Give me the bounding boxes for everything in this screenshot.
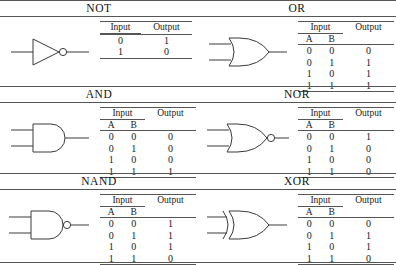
gate-title-nor: NOR [198, 87, 396, 102]
header-output: Output [145, 108, 196, 120]
table-row: 1 0 0 [100, 154, 196, 166]
cell-b: 1 [122, 230, 144, 242]
gate-cell-and: Input Output A B 0 0 [0, 103, 198, 171]
table-header-row: Input Output [100, 195, 196, 207]
truth-table-pane-xor: Input Output A B 0 0 [298, 192, 396, 265]
table-row: 1 0 [100, 46, 192, 58]
header-b: B [320, 119, 342, 130]
header-output: Output [343, 108, 394, 120]
cell-b: 0 [122, 241, 144, 253]
table-row: 0 0 1 [100, 218, 196, 230]
header-input: Input [100, 108, 145, 120]
cell-a: 1 [100, 154, 122, 166]
table-row: 1 0 1 [100, 241, 196, 253]
header-output: Output [343, 22, 394, 34]
header-input: Input [298, 195, 343, 207]
cell-output: 1 [343, 230, 394, 242]
header-spacer [145, 119, 196, 130]
gate-band-3: NAND XOR Inp [0, 173, 396, 262]
truth-table-pane-nor: Input Output A B 0 0 [298, 105, 396, 178]
cell-a: 0 [298, 45, 320, 57]
cell-output: 1 [343, 131, 394, 143]
cell-b: 0 [122, 154, 144, 166]
nor-gate-symbol [198, 105, 298, 171]
cell-a: 0 [298, 230, 320, 242]
header-a: A [100, 206, 122, 217]
header-spacer [343, 119, 394, 130]
table-header-row: Input Output [298, 195, 394, 207]
table-subheader-row: A B [298, 33, 394, 44]
header-spacer [343, 206, 394, 217]
cell-a: 0 [298, 218, 320, 230]
band-body-row: Input Output 0 1 1 0 [0, 17, 396, 85]
header-spacer [145, 206, 196, 217]
band-top-rule [0, 173, 396, 174]
cell-output: 0 [343, 154, 394, 166]
cell-a: 1 [298, 241, 320, 253]
table-row: 1 0 1 [298, 241, 394, 253]
table-header-row: Input Output [298, 22, 394, 34]
table-row: 0 1 1 [298, 57, 394, 69]
header-a: A [298, 206, 320, 217]
header-a: A [298, 33, 320, 44]
table-row: 0 0 1 [298, 131, 394, 143]
cell-output: 1 [343, 57, 394, 69]
not-gate-symbol [0, 19, 100, 85]
nand-gate-symbol [0, 192, 100, 258]
cell-output: 1 [145, 218, 196, 230]
cell-output: 0 [343, 143, 394, 155]
cell-output: 0 [141, 46, 192, 58]
table-row: 0 0 0 [298, 45, 394, 57]
gate-title-and: AND [0, 87, 198, 102]
gate-title-nand: NAND [0, 174, 198, 189]
table-subheader-row: A B [298, 206, 394, 217]
truth-table-pane-or: Input Output A B 0 0 [298, 19, 396, 92]
cell-a: 1 [298, 154, 320, 166]
cell-b: 1 [320, 57, 342, 69]
cell-b: 0 [320, 68, 342, 80]
cell-b: 0 [320, 131, 342, 143]
cell-b: 1 [320, 143, 342, 155]
cell-output: 1 [145, 230, 196, 242]
gate-cell-or: Input Output A B 0 0 [198, 17, 396, 85]
header-b: B [122, 119, 144, 130]
header-b: B [320, 33, 342, 44]
cell-a: 0 [100, 230, 122, 242]
cell-output: 0 [145, 131, 196, 143]
cell-b: 0 [320, 241, 342, 253]
cell-output: 0 [145, 143, 196, 155]
header-b: B [122, 206, 144, 217]
truth-table-nand: Input Output A B 0 0 [100, 194, 196, 265]
band-top-rule [0, 0, 396, 1]
cell-input: 1 [100, 46, 141, 58]
band-title-row: NOT OR [0, 1, 396, 16]
table-row: 1 0 0 [298, 154, 394, 166]
table-row: 0 1 1 [298, 230, 394, 242]
header-a: A [100, 119, 122, 130]
header-output: Output [141, 22, 192, 34]
cell-a: 0 [298, 143, 320, 155]
cell-output: 1 [141, 34, 192, 46]
header-b: B [320, 206, 342, 217]
table-subheader-row: A B [100, 119, 196, 130]
band-title-underrule [0, 16, 396, 17]
gate-band-1: NOT OR Input [0, 0, 396, 86]
cell-a: 0 [298, 57, 320, 69]
table-row: 0 1 [100, 34, 192, 46]
header-output: Output [343, 195, 394, 207]
gate-cell-not: Input Output 0 1 1 0 [0, 17, 198, 85]
header-a: A [298, 119, 320, 130]
cell-input: 0 [100, 34, 141, 46]
band-body-row: Input Output A B 0 0 [0, 190, 396, 258]
table-row: 0 0 0 [298, 218, 394, 230]
band-title-row: NAND XOR [0, 174, 396, 189]
gate-cell-nand: Input Output A B 0 0 [0, 190, 198, 258]
cell-a: 1 [100, 241, 122, 253]
band-title-underrule [0, 102, 396, 103]
cell-output: 0 [343, 45, 394, 57]
cell-output: 1 [145, 241, 196, 253]
band-top-rule [0, 86, 396, 87]
header-input: Input [100, 195, 145, 207]
cell-a: 0 [100, 143, 122, 155]
